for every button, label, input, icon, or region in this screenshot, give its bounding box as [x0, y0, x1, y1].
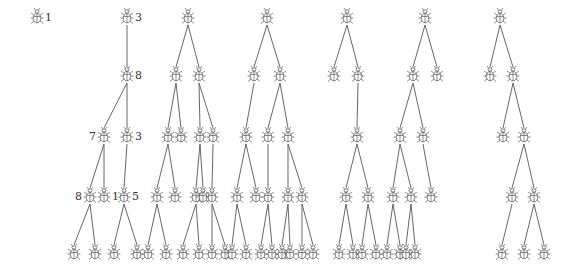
tree-6-edges: [387, 25, 437, 245]
tree-node: [206, 187, 219, 203]
bug-icon: [528, 187, 541, 203]
tree-node: [266, 244, 279, 260]
node-label: 5: [132, 190, 139, 203]
tree-edge: [90, 144, 104, 188]
bug-icon: [518, 244, 531, 260]
bug-icon: [352, 66, 365, 82]
forest-diagram: 13873815: [0, 0, 575, 269]
tree-node: 5: [118, 187, 140, 203]
tree-node: [362, 187, 375, 203]
tree-node: [262, 127, 275, 143]
bug-icon: [419, 8, 432, 24]
tree-node: [370, 244, 383, 260]
tree-node: [394, 127, 407, 143]
tree-node: [89, 244, 102, 260]
bug-icon: [240, 244, 253, 260]
tree-node: [381, 244, 394, 260]
tree-edge: [362, 204, 368, 245]
tree-node: [506, 187, 519, 203]
bug-icon: [84, 187, 97, 203]
bug-icon: [98, 127, 111, 143]
tree-node: [518, 127, 531, 143]
tree-node: [507, 66, 520, 82]
tree-node: [518, 244, 531, 260]
tree-edge: [267, 25, 280, 67]
tree-node: [296, 244, 309, 260]
bug-icon: [538, 244, 551, 260]
bug-icon: [151, 187, 164, 203]
tree-node: [352, 66, 365, 82]
tree-node: [169, 187, 182, 203]
tree-node: [177, 244, 190, 260]
tree-node: 1: [98, 187, 120, 203]
tree-edge: [411, 204, 415, 245]
bug-icon: [405, 187, 418, 203]
bug-icon: [177, 244, 190, 260]
bug-icon: [351, 127, 364, 143]
tree-edge: [157, 204, 166, 245]
bug-icon: [494, 8, 507, 24]
bug-icon: [431, 66, 444, 82]
tree-edge: [74, 204, 90, 245]
tree-7-edges: [490, 25, 544, 245]
bug-icon: [518, 127, 531, 143]
bug-icon: [262, 187, 275, 203]
bug-icon: [121, 127, 134, 143]
bug-icon: [131, 244, 144, 260]
tree-node: [341, 8, 354, 24]
tree-node: [484, 66, 497, 82]
bug-icon: [262, 127, 275, 143]
tree-edge: [524, 204, 534, 245]
tree-edge: [212, 144, 213, 188]
tree-node: [405, 187, 418, 203]
tree-node: [282, 127, 295, 143]
tree-edge: [148, 204, 157, 245]
tree-node: [494, 8, 507, 24]
tree-edge: [261, 204, 268, 245]
tree-node: 3: [121, 8, 143, 24]
node-label: 1: [45, 11, 52, 24]
bug-icon: [118, 187, 131, 203]
bug-icon: [484, 66, 497, 82]
tree-node: [131, 244, 144, 260]
bug-icon: [328, 66, 341, 82]
tree-edge: [357, 144, 368, 188]
tree-edge: [232, 204, 237, 245]
bug-icon: [266, 244, 279, 260]
tree-node: [207, 127, 220, 143]
bug-icon: [417, 127, 430, 143]
tree-edge: [513, 83, 524, 128]
tree-node: [170, 66, 183, 82]
tree-node: [248, 66, 261, 82]
bug-icon: [307, 244, 320, 260]
tree-edge: [254, 25, 267, 67]
bug-icon: [282, 187, 295, 203]
bug-icon: [250, 187, 263, 203]
bug-icon: [340, 187, 353, 203]
bug-icon: [175, 127, 188, 143]
tree-edge: [280, 83, 288, 128]
tree-node: 8: [121, 66, 143, 82]
tree-edge: [104, 83, 127, 128]
tree-edge: [200, 144, 203, 188]
bug-icon: [261, 8, 274, 24]
tree-node: [182, 8, 195, 24]
tree-edge: [512, 144, 524, 188]
tree-edge: [176, 25, 188, 67]
tree-edge: [393, 144, 400, 188]
tree-node: [108, 244, 121, 260]
bug-icon: [296, 244, 309, 260]
tree-edge: [500, 25, 513, 67]
tree-edge: [246, 144, 256, 188]
tree-node: [431, 66, 444, 82]
tree-edge: [393, 204, 400, 245]
tree-node: [262, 187, 275, 203]
bug-icon: [356, 244, 369, 260]
tree-edge: [368, 204, 376, 245]
bug-icon: [425, 187, 438, 203]
tree-node: [425, 187, 438, 203]
tree-edge: [524, 144, 534, 188]
bug-icon: [240, 127, 253, 143]
bug-icon: [333, 244, 346, 260]
tree-node: [162, 127, 175, 143]
